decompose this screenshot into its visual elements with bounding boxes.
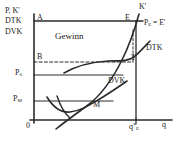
point-label-a: A — [37, 14, 43, 22]
y-axis-label-line1: P, K' — [5, 7, 20, 15]
x-axis-label: q — [162, 121, 166, 129]
curve-dvk-left-tail — [57, 96, 70, 118]
curve-average-total-cost — [64, 41, 150, 73]
curve-label-kprime: K' — [139, 3, 146, 11]
origin-label: 0 — [26, 122, 30, 130]
x-tick-label-qe-sub: E — [136, 126, 139, 131]
price-label-pm: PM — [13, 95, 22, 103]
curve-label-dtk: DTK — [146, 44, 162, 52]
x-tick-label-qe: q*E — [129, 122, 139, 131]
point-label-b: B — [37, 53, 42, 61]
curve-average-variable-cost — [47, 81, 127, 112]
price-label-p0-sub: 0 — [19, 72, 22, 77]
price-label-pe-rest: = E' — [151, 18, 165, 27]
price-label-pe: PE = E' — [144, 19, 165, 27]
point-label-e: E — [125, 14, 130, 22]
cost-curve-figure: P, K' DTK DVK A E B T M K' DTK DVK Gewin… — [0, 0, 177, 147]
region-label-gewinn: Gewinn — [55, 32, 84, 41]
y-axis-label-line3: DVK — [5, 28, 22, 36]
y-axis-label-line2: DTK — [5, 17, 21, 25]
point-label-t: T — [131, 54, 136, 62]
price-label-pm-sub: M — [17, 98, 21, 103]
price-label-p0: P0 — [15, 69, 22, 77]
point-label-m: M — [93, 101, 100, 109]
curve-label-dvk: DVK — [108, 77, 125, 85]
